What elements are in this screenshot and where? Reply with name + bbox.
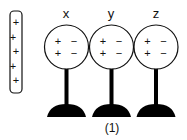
charge: − xyxy=(71,47,77,59)
charge: + xyxy=(55,47,61,59)
figure-caption: (1) xyxy=(105,121,120,135)
rod-charge: + xyxy=(13,16,19,28)
charge: − xyxy=(160,35,166,47)
electrostatic-diagram: + + + + + x + − + − y + − + − z + − + − … xyxy=(0,0,187,140)
sphere-outline xyxy=(134,25,178,69)
rod-charge: + xyxy=(10,31,16,43)
stand-base xyxy=(47,104,86,117)
stand-stem xyxy=(65,68,69,106)
sphere-label: y xyxy=(108,6,115,21)
charge: + xyxy=(100,47,106,59)
sphere-label: z xyxy=(153,6,160,21)
charge: − xyxy=(116,47,122,59)
charge: + xyxy=(100,35,106,47)
stand-base xyxy=(137,104,176,117)
sphere-x: x + − + − xyxy=(45,6,89,117)
sphere-outline xyxy=(45,25,89,69)
stand-stem xyxy=(154,68,158,106)
rod-charge: + xyxy=(10,60,16,72)
charge: − xyxy=(71,35,77,47)
charge: + xyxy=(144,47,150,59)
sphere-y: y + − + − xyxy=(90,6,134,117)
charge: − xyxy=(160,47,166,59)
sphere-label: x xyxy=(63,6,70,21)
charge: + xyxy=(144,35,150,47)
sphere-z: z + − + − xyxy=(134,6,178,117)
sphere-outline xyxy=(90,25,134,69)
charged-rod: + + + + + xyxy=(10,11,22,93)
rod-charge: + xyxy=(13,45,19,57)
charge: − xyxy=(116,35,122,47)
rod-charge: + xyxy=(13,74,19,86)
charge: + xyxy=(55,35,61,47)
stand-base xyxy=(92,104,131,117)
stand-stem xyxy=(110,68,114,106)
